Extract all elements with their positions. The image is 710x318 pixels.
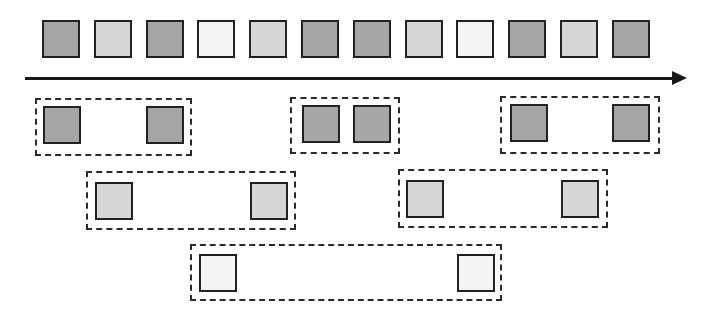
sequence-square-light — [249, 20, 287, 58]
sequence-square-dark — [146, 20, 184, 58]
sequence-square-light — [560, 20, 598, 58]
sequence-square-dark — [301, 20, 339, 58]
group-square-dark — [43, 106, 81, 144]
sequence-square-dark — [612, 20, 650, 58]
sequence-square-white — [456, 20, 494, 58]
sequence-square-light — [94, 20, 132, 58]
sequence-grouping-diagram — [0, 0, 710, 318]
arrow-head-icon — [672, 71, 687, 85]
group-square-dark — [146, 106, 184, 144]
group-square-light — [250, 182, 288, 220]
group-square-white — [199, 254, 237, 292]
sequence-square-dark — [353, 20, 391, 58]
sequence-square-dark — [508, 20, 546, 58]
sequence-square-dark — [42, 20, 80, 58]
group-square-dark — [510, 104, 548, 142]
group-square-light — [406, 180, 444, 218]
group-square-light — [561, 180, 599, 218]
sequence-square-white — [197, 20, 235, 58]
group-square-dark — [302, 105, 340, 143]
arrow-line — [25, 77, 675, 80]
group-square-dark — [353, 105, 391, 143]
group-square-dark — [612, 104, 650, 142]
sequence-square-light — [405, 20, 443, 58]
group-square-light — [95, 182, 133, 220]
group-square-white — [457, 254, 495, 292]
